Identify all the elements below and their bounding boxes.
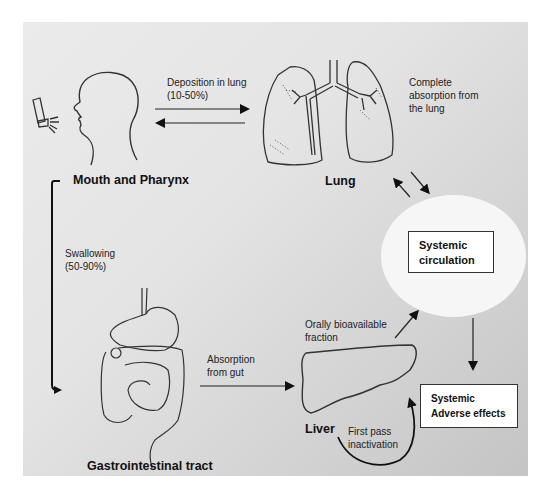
intestines-icon <box>101 288 184 468</box>
first-pass-label: First pass inactivation <box>348 425 398 451</box>
inhaler-icon <box>33 98 59 133</box>
systemic-circulation-box: Systemic circulation <box>408 231 494 273</box>
arrow-liver-to-circulation <box>395 312 417 338</box>
lungs-icon <box>263 60 393 165</box>
gut-absorption-label: Absorption from gut <box>207 353 255 379</box>
liver-icon <box>302 345 416 413</box>
swallowing-arrow <box>52 181 60 390</box>
liver-label: Liver <box>305 423 335 436</box>
deposition-label: Deposition in lung (10-50%) <box>167 76 247 102</box>
oral-fraction-label: Orally bioavailable fraction <box>305 318 387 344</box>
mouth-pharynx-label: Mouth and Pharynx <box>73 174 189 187</box>
lung-label: Lung <box>325 175 356 188</box>
arrow-lung-to-circulation <box>411 172 428 192</box>
head-profile-icon <box>74 72 138 165</box>
systemic-adverse-effects-box: Systemic Adverse effects <box>420 384 518 428</box>
swallowing-label: Swallowing (50-90%) <box>65 247 115 273</box>
gi-tract-label: Gastrointestinal tract <box>87 460 213 473</box>
lung-absorption-label: Complete absorption from the lung <box>409 76 478 115</box>
arrow-circulation-to-lung <box>395 180 410 197</box>
